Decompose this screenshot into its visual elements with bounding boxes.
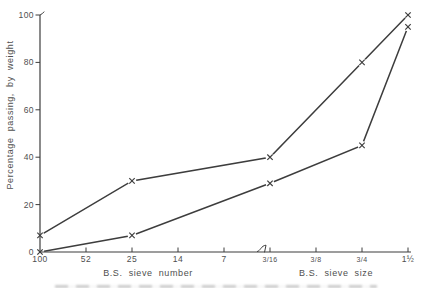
axis-scale-break-mark: [257, 245, 266, 252]
y-tick-label: 40: [24, 152, 34, 162]
x-tick-label: 25: [127, 254, 137, 264]
y-tick-label: 20: [24, 200, 34, 210]
y-tick-label: 80: [24, 57, 34, 67]
x-axis-title-left: B.S. sieve number: [103, 268, 193, 278]
series-lines-layer: [40, 15, 408, 252]
x-tick-label: 7: [221, 254, 226, 264]
x-tick-label: 100: [32, 254, 47, 264]
x-axis-title-right: B.S. sieve size: [299, 268, 373, 278]
y-tick-label: 100: [19, 10, 34, 20]
x-tick-label: 14: [173, 254, 183, 264]
x-tick-label: 3/16: [262, 256, 277, 263]
x-tick-label: 52: [81, 254, 91, 264]
series-line: [40, 27, 408, 252]
grading-curves-chart: 02040608010010052251473/163/83/41½ Perce…: [0, 0, 425, 288]
marker-halos-layer: [36, 11, 413, 257]
series-line: [40, 15, 408, 235]
x-tick-label: 3/4: [357, 256, 368, 263]
x-tick-label: 1½: [402, 254, 415, 264]
markers-layer: [37, 12, 410, 254]
y-axis-title: Percentage passing, by weight: [5, 41, 15, 190]
tick-labels-layer: 02040608010010052251473/163/83/41½: [19, 10, 415, 264]
y-tick-label: 60: [24, 105, 34, 115]
y-axis-top-hook: [40, 12, 44, 15]
x-tick-label: 3/8: [311, 256, 322, 263]
grading-curves-figure: 02040608010010052251473/163/83/41½ Perce…: [0, 0, 425, 288]
axes-layer: [36, 12, 412, 253]
